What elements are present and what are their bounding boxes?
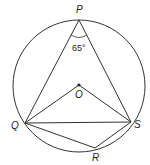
label-p: P	[76, 4, 83, 15]
label-o: O	[75, 89, 83, 100]
label-r: R	[92, 152, 99, 163]
segment-os	[79, 85, 131, 122]
label-s: S	[134, 119, 141, 130]
label-q: Q	[11, 120, 19, 131]
angle-label: 65°	[72, 43, 86, 53]
circle-diagram: P 65° O Q S R	[0, 0, 150, 165]
segment-rs	[95, 122, 131, 148]
angle-arc-p	[71, 35, 87, 38]
segment-qs	[25, 122, 131, 123]
segment-pq	[25, 20, 79, 123]
segment-qo	[25, 85, 79, 123]
centre-dot	[77, 83, 80, 86]
